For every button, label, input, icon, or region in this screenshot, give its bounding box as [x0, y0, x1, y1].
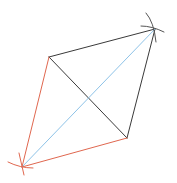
diagonal-bd [49, 57, 127, 138]
arc-marks-a [8, 153, 33, 175]
segment-cd [127, 29, 155, 138]
segment-ad [22, 138, 127, 167]
segment-bc [49, 29, 155, 57]
diagonal-ac [22, 29, 155, 167]
segment-ab [22, 57, 49, 167]
rhombus-diagram [0, 0, 177, 183]
